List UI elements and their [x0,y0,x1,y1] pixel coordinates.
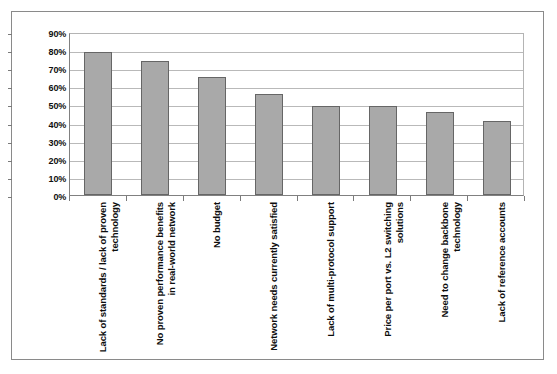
bar[interactable] [84,52,112,195]
bar[interactable] [141,61,169,195]
x-axis-category-label: Need to change backbone technology [439,202,462,354]
bar-slot [354,34,411,195]
x-axis-category-label: Lack of standards / lack of proven techn… [97,202,120,354]
bar[interactable] [369,106,397,195]
x-axis-tick-mark [353,196,354,201]
x-axis-category-label: Price per port vs. L2 switching solution… [382,202,405,354]
bar[interactable] [483,121,511,195]
bar[interactable] [312,106,340,195]
x-axis-tick-mark [467,196,468,201]
bar-slot [298,34,355,195]
y-axis-tick-label: 10% [20,174,66,183]
y-axis-tick-mark [8,197,12,198]
x-axis-category-labels: Lack of standards / lack of proven techn… [69,202,524,357]
bar-slot [184,34,241,195]
y-axis-tick-mark [8,143,12,144]
bar[interactable] [255,94,283,195]
x-axis-category-label: Lack of reference accounts [496,202,508,354]
plot-area [69,33,524,196]
y-axis-tick-mark [8,106,12,107]
x-axis-tick-mark [524,196,525,201]
y-axis-tick-label: 0% [20,193,66,202]
y-axis-tick-mark [8,88,12,89]
x-axis-tick-mark [183,196,184,201]
chart-frame: 90%80%70%60%50%40%30%20%10%0% Lack of st… [11,11,544,360]
bar-slot [241,34,298,195]
y-axis-tick-label: 90% [20,30,66,39]
x-axis-tick-mark [69,196,70,201]
y-axis-tick-label: 40% [20,120,66,129]
bar-slot [127,34,184,195]
y-axis-tick-mark [8,179,12,180]
x-axis-label-slot: No proven performance benefits in real-w… [126,202,183,357]
x-axis-category-label: No proven performance benefits in real-w… [154,202,177,354]
y-axis-tick-mark [8,70,12,71]
x-axis-label-slot: Lack of standards / lack of proven techn… [69,202,126,357]
x-axis-tick-mark [240,196,241,201]
bar-slot [411,34,468,195]
y-axis-tick-mark [8,125,12,126]
x-axis-label-slot: Lack of reference accounts [467,202,524,357]
bar-slot [468,34,525,195]
x-axis-tick-mark [297,196,298,201]
y-axis-labels: 90%80%70%60%50%40%30%20%10%0% [12,33,66,196]
y-axis-tick-label: 50% [20,102,66,111]
bar-slot [70,34,127,195]
x-axis-tick-mark [410,196,411,201]
y-axis-tick-label: 70% [20,66,66,75]
x-axis-ticks [69,196,524,201]
y-axis-tick-label: 80% [20,48,66,57]
x-axis-category-label: Lack of multi-protocol support [325,202,337,354]
y-axis-tick-mark [8,34,12,35]
y-axis-tick-mark [8,52,12,53]
x-axis-label-slot: Lack of multi-protocol support [297,202,354,357]
y-axis-tick-label: 30% [20,138,66,147]
y-axis-tick-label: 60% [20,84,66,93]
y-axis-tick-label: 20% [20,156,66,165]
x-axis-label-slot: No budget [183,202,240,357]
x-axis-tick-mark [126,196,127,201]
x-axis-label-slot: Price per port vs. L2 switching solution… [353,202,410,357]
x-axis-category-label: No budget [211,202,223,354]
x-axis-label-slot: Network needs currently satisfied [240,202,297,357]
x-axis-label-slot: Need to change backbone technology [410,202,467,357]
bar[interactable] [198,77,226,195]
bar[interactable] [426,112,454,195]
x-axis-category-label: Network needs currently satisfied [268,202,280,354]
y-axis-tick-mark [8,161,12,162]
